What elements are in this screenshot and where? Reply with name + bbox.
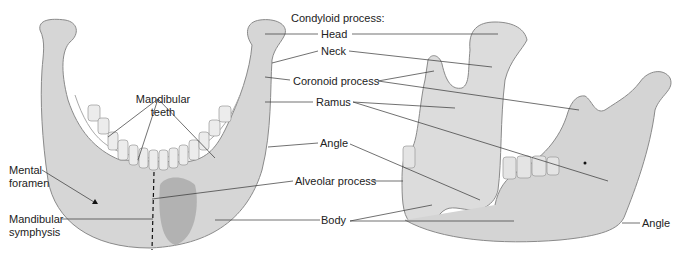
lateral-mandible xyxy=(402,22,671,242)
label-angle: Angle xyxy=(320,137,348,150)
label-mental-foramen: Mental foramen xyxy=(9,164,49,190)
label-mandibular-symphysis-line1: Mandibular xyxy=(9,213,63,226)
label-ramus: Ramus xyxy=(316,96,351,109)
label-head: Head xyxy=(321,28,347,41)
anterior-mandible xyxy=(40,19,286,250)
label-condyloid-process: Condyloid process: xyxy=(291,12,385,25)
label-alveolar-process: Alveolar process xyxy=(295,175,376,188)
label-mandibular-symphysis: Mandibular symphysis xyxy=(9,213,63,239)
label-mandibular-teeth: Mandibular teeth xyxy=(128,93,198,119)
label-body: Body xyxy=(321,214,346,227)
label-mandibular-symphysis-line2: symphysis xyxy=(9,226,63,239)
mandible-diagram: Mandibular teeth Mental foramen Mandibul… xyxy=(0,0,678,262)
label-coronoid-process: Coronoid process xyxy=(293,75,379,88)
label-mental-foramen-line1: Mental xyxy=(9,164,49,177)
label-angle-lateral: Angle xyxy=(642,217,670,230)
label-mental-foramen-line2: foramen xyxy=(9,177,49,190)
label-neck: Neck xyxy=(321,45,346,58)
label-mandibular-teeth-line1: Mandibular xyxy=(128,93,198,106)
label-mandibular-teeth-line2: teeth xyxy=(128,106,198,119)
